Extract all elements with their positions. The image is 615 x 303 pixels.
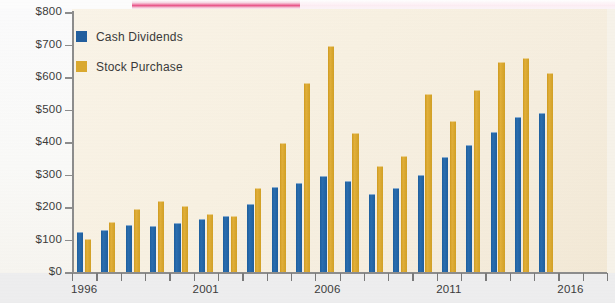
x-axis-tick: [510, 273, 511, 281]
bar-stock-purchase: [182, 206, 188, 272]
bar-cash-dividends: [77, 232, 83, 272]
x-axis-tick: [485, 273, 486, 281]
x-axis-tick: [340, 273, 341, 281]
x-axis-tick: [583, 273, 584, 281]
x-axis-tick: [72, 273, 73, 281]
bar-stock-purchase: [523, 58, 529, 272]
x-axis-tick-label: 2016: [557, 283, 583, 295]
bar-cash-dividends: [345, 181, 351, 272]
bar-stock-purchase: [85, 239, 91, 272]
bar-cash-dividends: [150, 226, 156, 272]
x-axis-tick: [388, 273, 389, 281]
bar-cash-dividends: [466, 145, 472, 272]
bar-cash-dividends: [515, 117, 521, 272]
bar-cash-dividends: [272, 187, 278, 272]
x-axis-tick: [218, 273, 219, 281]
bar-cash-dividends: [296, 183, 302, 272]
x-axis-tick: [145, 273, 146, 281]
legend-swatch-icon-stock-purchase: [76, 61, 87, 72]
x-axis-tick-label: 2011: [436, 283, 462, 295]
bar-stock-purchase: [474, 90, 480, 272]
x-axis-tick: [242, 273, 243, 281]
x-axis-tick: [267, 273, 268, 281]
x-axis-tick: [461, 273, 462, 281]
x-axis-tick: [364, 273, 365, 281]
bar-cash-dividends: [126, 225, 132, 272]
legend-item-cash-dividends: Cash Dividends: [76, 26, 183, 47]
bar-stock-purchase: [401, 156, 407, 272]
bar-cash-dividends: [369, 194, 375, 272]
x-axis-tick: [412, 273, 413, 281]
bar-cash-dividends: [320, 176, 326, 272]
bar-stock-purchase: [304, 83, 310, 272]
bar-cash-dividends: [442, 157, 448, 272]
bar-cash-dividends: [491, 132, 497, 272]
bar-stock-purchase: [498, 62, 504, 272]
x-axis-tick: [96, 273, 97, 281]
bar-cash-dividends: [539, 113, 545, 272]
bar-stock-purchase: [207, 214, 213, 272]
x-axis-tick: [315, 273, 316, 281]
bar-cash-dividends: [247, 204, 253, 272]
legend-label-stock-purchase: Stock Purchase: [96, 60, 183, 74]
bar-stock-purchase: [231, 216, 237, 272]
bar-cash-dividends: [393, 188, 399, 272]
bar-stock-purchase: [328, 46, 334, 272]
x-axis-tick-label: 2001: [193, 283, 219, 295]
bar-cash-dividends: [418, 175, 424, 273]
bar-cash-dividends: [101, 230, 107, 272]
x-axis-tick: [169, 273, 170, 281]
x-axis-tick: [121, 273, 122, 281]
bar-stock-purchase: [352, 133, 358, 272]
x-axis-tick: [534, 273, 535, 281]
bar-stock-purchase: [425, 94, 431, 272]
x-axis-tick: [607, 273, 608, 281]
chart-legend: Cash Dividends Stock Purchase: [76, 26, 183, 86]
bar-stock-purchase: [547, 73, 553, 272]
legend-label-cash-dividends: Cash Dividends: [96, 30, 183, 44]
x-axis-tick: [194, 273, 195, 281]
legend-swatch-icon-cash-dividends: [76, 31, 87, 42]
bar-stock-purchase: [280, 143, 286, 272]
x-axis-tick-label: 1996: [71, 283, 97, 295]
x-axis-tick: [437, 273, 438, 281]
bar-stock-purchase: [134, 209, 140, 272]
legend-item-stock-purchase: Stock Purchase: [76, 56, 183, 77]
x-axis-tick-label: 2006: [314, 283, 340, 295]
x-axis-tick: [291, 273, 292, 281]
bar-cash-dividends: [199, 219, 205, 272]
bar-stock-purchase: [450, 121, 456, 272]
bar-stock-purchase: [158, 201, 164, 272]
bar-stock-purchase: [255, 188, 261, 272]
bar-stock-purchase: [109, 222, 115, 272]
chart-root: $0$100$200$300$400$500$600$700$800 19962…: [0, 0, 615, 303]
bar-cash-dividends: [223, 216, 229, 272]
x-axis-tick: [558, 273, 559, 281]
bar-cash-dividends: [174, 223, 180, 272]
bar-stock-purchase: [377, 166, 383, 272]
